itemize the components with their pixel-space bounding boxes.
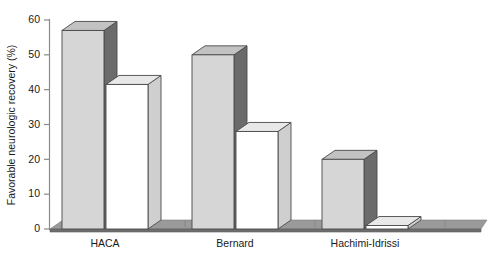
chart-container: Favorable neurologic recovery (%) 010203…	[0, 0, 493, 259]
bar-bernard-series-2[interactable]	[236, 122, 291, 229]
bar-front-face	[106, 84, 148, 229]
bar-front-face	[62, 30, 104, 229]
y-tick-label: 20	[28, 153, 40, 165]
y-tick-label: 60	[28, 13, 40, 25]
y-axis-ticks: 0102030405060	[28, 13, 49, 234]
bar-series-group	[62, 21, 421, 229]
floor-front-edge	[50, 229, 481, 232]
bar-front-face	[236, 131, 278, 229]
bar-front-face	[322, 159, 364, 229]
x-axis-label-bernard: Bernard	[216, 237, 254, 249]
bar-side-face	[364, 150, 377, 229]
bar-front-face	[366, 226, 408, 229]
x-axis-label-haca: HACA	[90, 237, 119, 249]
bar-chart: Favorable neurologic recovery (%) 010203…	[0, 0, 493, 259]
y-axis-title: Favorable neurologic recovery (%)	[5, 45, 17, 205]
x-axis-label-hachimi-idrissi: Hachimi-Idrissi	[331, 237, 400, 249]
y-tick-label: 0	[34, 222, 40, 234]
bar-hachimi-idrissi-series-1[interactable]	[322, 150, 377, 229]
bar-front-face	[192, 55, 234, 229]
bar-haca-series-2[interactable]	[106, 75, 161, 229]
y-tick-label: 50	[28, 48, 40, 60]
y-tick-label: 10	[28, 187, 40, 199]
bar-side-face	[278, 122, 291, 229]
bar-side-face	[148, 75, 161, 229]
y-tick-label: 30	[28, 118, 40, 130]
y-tick-label: 40	[28, 83, 40, 95]
